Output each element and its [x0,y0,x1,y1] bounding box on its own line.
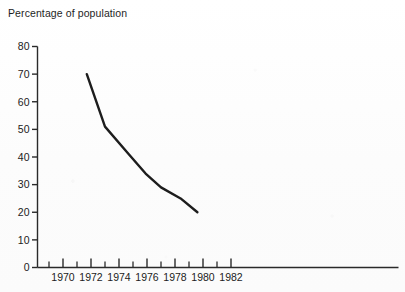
data-line [87,74,198,212]
y-tick-label: 0 [24,261,30,273]
x-tick-label: 1980 [191,271,215,283]
y-tick-label: 30 [18,178,30,190]
y-tick-label: 10 [18,234,30,246]
x-tick-label: 1982 [219,271,243,283]
x-tick-label: 1978 [163,271,187,283]
x-tick-label: 1974 [107,271,131,283]
y-tick-label: 40 [18,151,30,163]
y-axis: 01020304050607080 [18,40,38,273]
y-tick-label: 70 [18,68,30,80]
y-tick-label: 20 [18,206,30,218]
x-tick-label: 1976 [135,271,159,283]
chart-figure: Percentage of population 010203040506070… [0,0,405,292]
y-tick-label: 50 [18,123,30,135]
x-axis: 1970197219741976197819801982 [38,259,399,284]
chart-plot-area: 01020304050607080 1970197219741976197819… [0,0,405,292]
data-series-group [87,74,198,212]
y-tick-label: 80 [18,40,30,52]
y-tick-label: 60 [18,96,30,108]
x-tick-label: 1972 [79,271,103,283]
x-tick-label: 1970 [51,271,75,283]
